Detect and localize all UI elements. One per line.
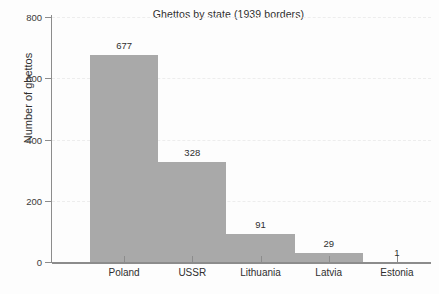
y-tick-label-200: 200: [0, 195, 42, 206]
bar-value-latvia: 29: [295, 238, 363, 249]
x-tick-label-ussr: USSR: [178, 267, 206, 278]
bar-value-lithuania: 91: [226, 219, 294, 230]
x-tick-label-lithuania: Lithuania: [240, 267, 281, 278]
bar-poland: [90, 55, 158, 262]
x-tick-label-poland: Poland: [109, 267, 140, 278]
y-tick-mark-200: [45, 201, 52, 202]
x-tick-mark-estonia: [397, 256, 398, 263]
x-tick-mark-latvia: [329, 256, 330, 263]
x-tick-label-latvia: Latvia: [315, 267, 342, 278]
x-axis-line: [52, 262, 431, 264]
y-tick-mark-600: [45, 78, 52, 79]
plot-area: 67732891291: [52, 17, 431, 262]
bar-ussr: [158, 162, 226, 262]
chart-screenshot: Ghettos by state (1939 borders) Number o…: [0, 0, 439, 294]
bar-value-poland: 677: [90, 40, 158, 51]
y-tick-label-800: 800: [0, 12, 42, 23]
x-tick-mark-ussr: [192, 256, 193, 263]
x-tick-label-estonia: Estonia: [380, 267, 413, 278]
y-axis-title: Number of ghettos: [22, 18, 34, 178]
y-tick-label-400: 400: [0, 134, 42, 145]
bar-value-ussr: 328: [158, 147, 226, 158]
y-tick-mark-800: [45, 17, 52, 18]
y-tick-mark-0: [45, 262, 52, 263]
y-tick-label-0: 0: [0, 257, 42, 268]
y-tick-mark-400: [45, 140, 52, 141]
x-tick-mark-poland: [124, 256, 125, 263]
x-tick-mark-lithuania: [261, 256, 262, 263]
y-tick-label-600: 600: [0, 73, 42, 84]
